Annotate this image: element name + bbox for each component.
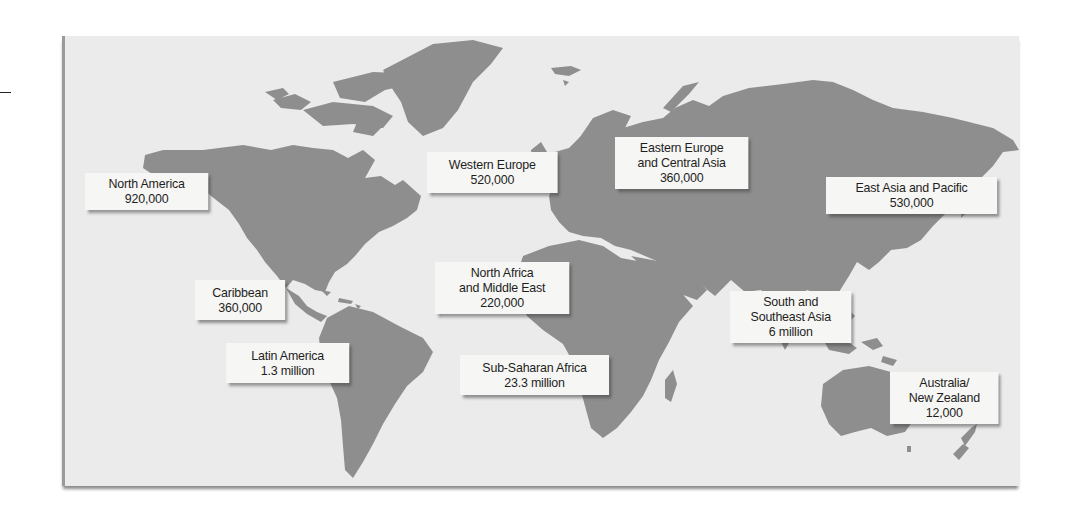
region-label-north-america: North America 920,000 — [85, 173, 208, 210]
madagascar — [665, 370, 677, 402]
region-value: 920,000 — [91, 191, 203, 206]
greenland — [383, 40, 503, 136]
region-label-east-asia-pacific: East Asia and Pacific 530,000 — [826, 177, 997, 214]
region-value: 530,000 — [832, 195, 992, 210]
region-label-latin-america: Latin America 1.3 million — [226, 343, 349, 383]
region-value: 360,000 — [621, 170, 743, 185]
region-name: North America — [91, 176, 203, 191]
region-name: Southeast Asia — [736, 309, 846, 324]
region-value: 220,000 — [441, 295, 564, 310]
caribbean-islands — [321, 290, 361, 309]
region-name: Latin America — [232, 348, 344, 363]
region-value: 360,000 — [201, 300, 280, 315]
region-value: 1.3 million — [232, 363, 344, 378]
new-zealand — [907, 424, 977, 460]
region-name: and Middle East — [441, 280, 564, 295]
region-value: 23.3 million — [466, 375, 604, 390]
world-map — [65, 36, 1019, 486]
region-name: Sub-Saharan Africa — [466, 360, 604, 375]
region-name: Western Europe — [433, 157, 553, 172]
north-america-land — [143, 145, 421, 292]
region-label-north-africa-middle-east: North Africa and Middle East 220,000 — [435, 262, 569, 314]
margin-rule — [0, 92, 11, 93]
region-value: 12,000 — [896, 405, 994, 420]
region-name: East Asia and Pacific — [832, 180, 992, 195]
region-label-caribbean: Caribbean 360,000 — [195, 280, 285, 320]
region-label-sub-saharan-africa: Sub-Saharan Africa 23.3 million — [460, 355, 609, 395]
iceland — [551, 66, 581, 86]
region-label-south-southeast-asia: South and Southeast Asia 6 million — [730, 291, 851, 343]
region-name: and Central Asia — [621, 155, 743, 170]
central-america-land — [286, 288, 327, 322]
region-label-australia-new-zealand: Australia/ New Zealand 12,000 — [890, 372, 999, 424]
region-name: South and — [736, 294, 846, 309]
region-name: New Zealand — [896, 390, 994, 405]
world-map-panel: North America 920,000 Western Europe 520… — [62, 36, 1019, 486]
region-name: North Africa — [441, 265, 564, 280]
region-name: Eastern Europe — [621, 140, 743, 155]
region-label-eastern-europe-central-asia: Eastern Europe and Central Asia 360,000 — [615, 137, 748, 189]
region-label-western-europe: Western Europe 520,000 — [427, 152, 558, 193]
region-value: 6 million — [736, 324, 846, 339]
region-name: Caribbean — [201, 285, 280, 300]
south-america-land — [319, 306, 433, 478]
region-value: 520,000 — [433, 172, 553, 187]
region-name: Australia/ — [896, 375, 994, 390]
